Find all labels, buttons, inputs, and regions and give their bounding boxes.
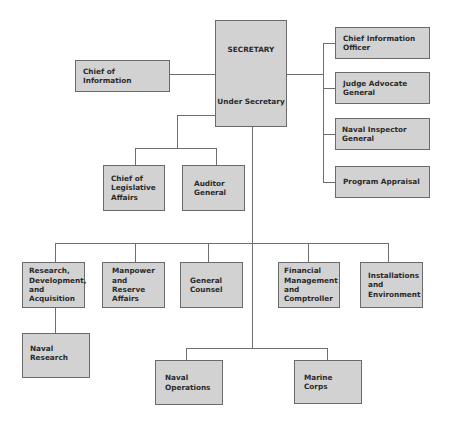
connector-naval-research	[55, 308, 56, 333]
marine-corps-box[interactable]: Marine Corps	[294, 360, 362, 404]
box-label-line: and	[368, 280, 415, 289]
naval-research-box[interactable]: Naval Research	[22, 333, 90, 378]
connector-main-vertical	[252, 127, 253, 349]
box-label-line: Research	[30, 353, 82, 362]
connector-marine-corps	[327, 348, 328, 360]
installations-environment-box[interactable]: Installations and Environment	[360, 262, 423, 308]
box-label-line: Manpower	[112, 266, 157, 275]
box-label-line: General	[190, 276, 235, 285]
connector-right-3	[323, 134, 335, 135]
box-label-line: Marine Corps	[304, 373, 354, 392]
connector-right-2	[323, 88, 335, 89]
under-secretary-label: Under Secretary	[216, 97, 286, 106]
box-label-line: Management	[284, 276, 334, 285]
box-label-line: Auditor	[194, 179, 237, 188]
box-label-line: and	[29, 285, 78, 294]
connector-secretary-right	[287, 74, 323, 75]
connector-rda	[55, 243, 56, 262]
box-label-line: Chief of	[111, 174, 157, 183]
box-label-line: Comptroller	[284, 294, 334, 303]
financial-management-comptroller-box[interactable]: Financial Management and Comptroller	[278, 262, 340, 308]
box-label-line: Judge Advocate	[343, 79, 422, 88]
connector-chief-info	[170, 74, 215, 75]
box-label-line: Acquisition	[29, 294, 78, 303]
chief-of-information-box[interactable]: Chief of Information	[75, 60, 170, 92]
chief-of-legislative-affairs-box[interactable]: Chief of Legislative Affairs	[103, 165, 165, 211]
secretary-label: SECRETARY	[216, 45, 286, 54]
box-label-line: General	[343, 88, 422, 97]
box-label-line: Naval	[30, 344, 82, 353]
box-label-line: Environment	[368, 290, 415, 299]
box-label-line: Counsel	[190, 285, 235, 294]
connector-right-4	[323, 182, 335, 183]
box-label-line: Operations	[165, 383, 215, 392]
manpower-reserve-affairs-box[interactable]: Manpower and Reserve Affairs	[102, 262, 165, 308]
box-label-line: Affairs	[111, 193, 157, 202]
box-label-line: and Reserve	[112, 276, 157, 295]
naval-operations-box[interactable]: Naval Operations	[155, 360, 223, 405]
box-label-line: Naval Inspector General	[342, 125, 422, 144]
box-label-line: Legislative	[111, 183, 157, 192]
connector-manpower	[135, 243, 136, 262]
connector-assistant-bus	[55, 243, 389, 244]
box-label-line: Naval	[165, 373, 215, 382]
judge-advocate-general-box[interactable]: Judge Advocate General	[335, 72, 430, 104]
connector-undersec-left	[177, 115, 215, 116]
box-label: Chief of Information	[83, 67, 162, 86]
box-label-line: Program Appraisal	[343, 177, 422, 186]
connector-right-1	[323, 43, 335, 44]
box-label-line: Development,	[29, 276, 78, 285]
naval-inspector-general-box[interactable]: Naval Inspector General	[335, 118, 430, 150]
connector-undersec-left-down	[177, 115, 178, 149]
connector-right-vertical	[323, 43, 324, 183]
connector-installations	[388, 243, 389, 262]
connector-forces-bus	[186, 348, 327, 349]
connector-counsel	[208, 243, 209, 262]
box-label-line: Installations	[368, 271, 415, 280]
box-label-line: Research,	[29, 266, 78, 275]
connector-legislative	[135, 148, 136, 165]
program-appraisal-box[interactable]: Program Appraisal	[335, 166, 430, 198]
connector-naval-ops	[186, 348, 187, 360]
general-counsel-box[interactable]: General Counsel	[180, 262, 243, 308]
chief-information-officer-box[interactable]: Chief Information Officer	[335, 27, 430, 59]
box-label-line: Officer	[343, 43, 422, 52]
connector-auditor	[216, 148, 217, 165]
connector-financial	[308, 243, 309, 262]
box-label-line: General	[194, 188, 237, 197]
auditor-general-box[interactable]: Auditor General	[182, 165, 245, 211]
box-label-line: Chief Information	[343, 34, 422, 43]
secretary-box[interactable]: SECRETARY Under Secretary	[215, 20, 287, 127]
box-label-line: and	[284, 285, 334, 294]
box-label-line: Affairs	[112, 294, 157, 303]
box-label-line: Financial	[284, 266, 334, 275]
research-development-acquisition-box[interactable]: Research, Development, and Acquisition	[22, 262, 85, 308]
connector-staff-bus	[135, 148, 217, 149]
